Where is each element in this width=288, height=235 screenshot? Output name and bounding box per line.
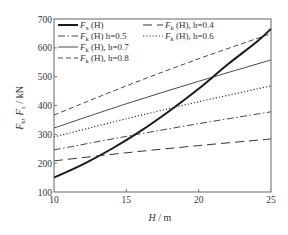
x-axis-label: H / m (148, 212, 172, 223)
y-tick-label: 400 (38, 101, 53, 111)
y-tick-label: 300 (38, 130, 53, 140)
legend-label: Fk (H) h=0.5 (79, 31, 127, 42)
legend-item: Fk (H), h=0.8 (58, 53, 129, 64)
x-tick-label: 10 (49, 195, 59, 205)
legend-item: Fk (H), h=0.4 (143, 20, 214, 31)
x-tick-label: 15 (122, 195, 132, 205)
chart: 100200300400500600700 10152025 Fx (H)Fk … (0, 0, 288, 235)
legend-label: Fk (H), h=0.6 (164, 31, 214, 42)
legend-label: Fx (H) (79, 20, 104, 31)
legend-item: Fk (H), h=0.6 (143, 31, 214, 42)
plot-frame (54, 19, 271, 192)
series-line-3 (54, 86, 271, 137)
y-tick-label: 200 (38, 159, 53, 169)
legend-label: Fk (H), h=0.7 (79, 42, 129, 53)
series-line-2 (54, 112, 271, 150)
x-tick-label: 25 (266, 195, 276, 205)
legend-label: Fk (H), h=0.8 (79, 53, 129, 64)
series-line-4 (54, 60, 271, 128)
legend-item: Fk (H) h=0.5 (58, 31, 127, 42)
y-tick-label: 500 (38, 72, 53, 82)
y-axis-label: Fk, Fx / kN (14, 86, 26, 131)
legend-item: Fx (H) (58, 20, 104, 31)
legend-label: Fk (H), h=0.4 (164, 20, 214, 31)
legend: Fx (H)Fk (H) h=0.5Fk (H), h=0.7Fk (H), h… (58, 20, 214, 64)
y-tick-label: 700 (38, 15, 53, 25)
x-tick-label: 20 (194, 195, 204, 205)
x-axis: 10152025 (49, 189, 276, 205)
y-tick-label: 600 (38, 43, 53, 53)
legend-item: Fk (H), h=0.7 (58, 42, 129, 53)
series-line-1 (54, 139, 271, 161)
